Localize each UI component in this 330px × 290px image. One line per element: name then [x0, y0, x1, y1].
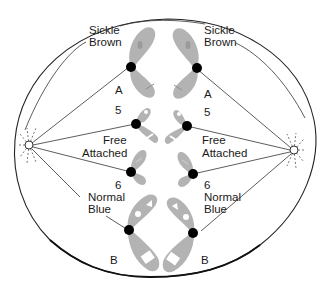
left-label-chromosome-A: A: [115, 84, 123, 96]
cell-division-diagram: Sickle Brown A 5 Free Attached 6 Normal …: [0, 0, 330, 290]
left-label-normal: Normal: [88, 191, 125, 203]
right-label-chromosome-5: 5: [204, 106, 210, 118]
left-centriole-icon: [18, 128, 36, 163]
right-label-attached: Attached: [202, 147, 247, 159]
centromere-icon: [126, 167, 136, 177]
left-label-blue: Blue: [88, 203, 111, 215]
centromere-icon: [188, 228, 198, 238]
right-brown-leader-line: [236, 43, 305, 118]
centromere-icon: [192, 63, 202, 73]
right-label-chromosome-A: A: [204, 88, 212, 100]
right-label-chromosome-6: 6: [204, 179, 210, 191]
diagram-canvas: Sickle Brown A 5 Free Attached 6 Normal …: [0, 0, 330, 290]
right-label-free: Free: [202, 134, 226, 146]
left-brown-leader-line: [25, 42, 86, 130]
centromere-icon: [188, 169, 198, 179]
left-label-sickle: Sickle: [89, 24, 120, 36]
left-chromosome-6: [126, 150, 146, 185]
right-chromosome-A: [173, 28, 202, 99]
left-chromosome-5: [131, 108, 158, 143]
right-label-blue: Blue: [204, 203, 227, 215]
centromere-icon: [131, 119, 141, 129]
left-label-chromosome-B: B: [110, 254, 118, 266]
left-label-chromosome-6: 6: [115, 179, 121, 191]
centromere-icon: [182, 121, 192, 131]
right-label-brown: Brown: [204, 36, 237, 48]
left-label-free: Free: [103, 134, 127, 146]
right-label-sickle: Sickle: [204, 24, 235, 36]
right-chromosome-B: [163, 198, 198, 273]
right-chromosome-6: [178, 152, 198, 187]
left-label-chromosome-5: 5: [115, 104, 121, 116]
right-label-chromosome-B: B: [201, 254, 209, 266]
cell-membrane: [14, 19, 315, 277]
right-centriole-icon: [287, 133, 306, 168]
centromere-icon: [124, 225, 134, 235]
left-chromosome-B: [124, 195, 159, 272]
left-chromosome-A: [126, 27, 155, 98]
centromere-icon: [126, 62, 136, 72]
left-sickle-leader-line: [120, 20, 205, 26]
right-chromosome-5: [165, 110, 192, 144]
left-label-attached: Attached: [82, 147, 127, 159]
left-label-brown: Brown: [89, 36, 122, 48]
right-label-normal: Normal: [204, 191, 241, 203]
